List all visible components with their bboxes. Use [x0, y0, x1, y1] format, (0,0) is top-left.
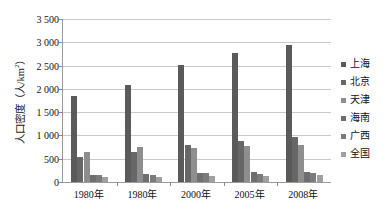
legend-item: 广西	[341, 127, 391, 145]
legend-swatch-icon	[341, 80, 346, 85]
bar	[131, 152, 137, 182]
bar	[84, 152, 90, 182]
bar	[197, 173, 203, 182]
bar	[263, 176, 269, 182]
bar-group	[232, 19, 269, 182]
legend-label: 全国	[350, 145, 370, 163]
y-axis-title-superscript: 2	[13, 65, 21, 69]
bar	[232, 53, 238, 182]
bar	[286, 45, 292, 182]
population-density-bar-chart: 人口密度（人/km2） 3 5003 0002 5002 0001 5001 0…	[0, 0, 392, 214]
y-axis-tick-label: 2 500	[37, 60, 60, 71]
legend-label: 广西	[350, 127, 370, 145]
bar	[209, 176, 215, 182]
bar-group	[178, 19, 215, 182]
x-axis-tick-labels: 1980年1980年2000年2005年2008年	[62, 186, 330, 206]
bar	[90, 175, 96, 182]
legend-swatch-icon	[341, 62, 346, 67]
bar	[77, 157, 83, 182]
bar	[203, 173, 209, 182]
y-axis-tick-label: 1 500	[37, 107, 60, 118]
legend-swatch-icon	[341, 134, 346, 139]
bar-group	[71, 19, 108, 182]
y-axis-tick-label: 500	[44, 153, 59, 164]
bar	[137, 147, 143, 182]
legend-item: 上海	[341, 55, 391, 73]
bar	[310, 173, 316, 182]
x-axis-tick-label: 1980年	[74, 186, 104, 201]
bar	[298, 145, 304, 182]
legend: 上海北京天津海南广西全国	[341, 55, 391, 163]
bar	[156, 177, 162, 182]
plot-area	[62, 19, 331, 183]
bar	[178, 65, 184, 182]
bar	[102, 177, 108, 182]
bars-layer	[63, 19, 331, 182]
legend-label: 上海	[350, 55, 370, 73]
bar	[244, 146, 250, 182]
y-axis-tick-label: 1 000	[37, 130, 60, 141]
bar	[185, 145, 191, 182]
bar	[125, 85, 131, 182]
bar	[191, 148, 197, 182]
bar	[143, 174, 149, 182]
bar	[317, 175, 323, 182]
legend-swatch-icon	[341, 116, 346, 121]
bar	[292, 137, 298, 182]
x-axis-tick-label: 2000年	[181, 186, 211, 201]
legend-swatch-icon	[341, 152, 346, 157]
bar	[304, 172, 310, 182]
y-axis-tickmark	[59, 182, 63, 183]
legend-swatch-icon	[341, 98, 346, 103]
legend-item: 海南	[341, 109, 391, 127]
bar	[257, 174, 263, 182]
bar-group	[125, 19, 162, 182]
y-axis-tick-label: 2 000	[37, 83, 60, 94]
x-axis-tick-label: 1980年	[127, 186, 157, 201]
x-axis-tick-label: 2008年	[288, 186, 318, 201]
bar	[71, 96, 77, 182]
legend-label: 天津	[350, 91, 370, 109]
legend-label: 海南	[350, 109, 370, 127]
bar-group	[286, 19, 323, 182]
bar	[251, 172, 257, 182]
legend-label: 北京	[350, 73, 370, 91]
bar	[238, 141, 244, 182]
y-axis-tick-label: 3 500	[37, 14, 60, 25]
legend-item: 天津	[341, 91, 391, 109]
y-axis-tick-labels: 3 5003 0002 5002 0001 5001 0005000	[22, 19, 59, 182]
bar	[150, 175, 156, 182]
x-axis-tick-label: 2005年	[235, 186, 265, 201]
legend-item: 全国	[341, 145, 391, 163]
legend-item: 北京	[341, 73, 391, 91]
y-axis-tick-label: 3 000	[37, 37, 60, 48]
bar	[96, 175, 102, 182]
